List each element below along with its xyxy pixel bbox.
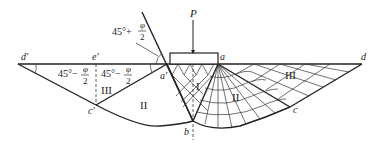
label-e-prime: e' <box>92 51 99 62</box>
zone-label-III-right: III <box>285 69 296 81</box>
failure-zone-diagram: P <box>0 0 380 144</box>
svg-text:φ: φ <box>140 20 145 30</box>
svg-text:2: 2 <box>140 32 145 42</box>
footing <box>170 53 218 64</box>
label-b: b <box>184 126 189 137</box>
label-c-prime: c' <box>88 105 95 116</box>
active-angle-label: 45°+ φ 2 <box>112 20 146 42</box>
svg-text:2: 2 <box>126 76 131 86</box>
angle-arc-a-prime-passive <box>150 64 152 73</box>
svg-text:45°+: 45°+ <box>112 26 132 37</box>
zone-label-II-right: II <box>232 91 240 103</box>
passive-angle-left-label: 45°− φ 2 <box>58 64 89 86</box>
angle-arc-a-prime-active <box>156 53 162 64</box>
load-arrow <box>191 20 195 54</box>
label-a: a <box>220 51 225 62</box>
label-d-prime: d' <box>21 51 29 62</box>
svg-text:φ: φ <box>126 64 131 74</box>
right-passive-bottom <box>218 64 290 107</box>
zone-label-III-left: III <box>101 84 112 96</box>
svg-text:2: 2 <box>83 76 88 86</box>
angle-leader <box>136 43 158 56</box>
label-d: d <box>361 51 367 62</box>
svg-text:45°−: 45°− <box>101 68 121 79</box>
passive-angle-right-label: 45°− φ 2 <box>101 64 132 86</box>
label-c: c <box>293 104 298 115</box>
load-label: P <box>189 7 197 19</box>
right-passive-outer <box>290 64 362 107</box>
zone-label-I: I <box>196 80 200 92</box>
svg-text:φ: φ <box>83 64 88 74</box>
svg-text:45°−: 45°− <box>58 68 78 79</box>
angle-arc-d-prime <box>35 64 36 73</box>
label-a-prime: a' <box>160 70 168 81</box>
zone-label-II-left: II <box>140 99 148 111</box>
